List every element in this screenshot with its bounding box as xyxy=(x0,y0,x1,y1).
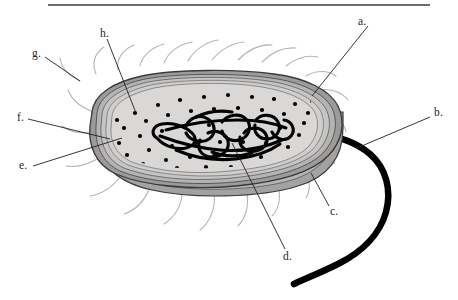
leader-c xyxy=(311,173,329,206)
leader-a xyxy=(312,26,368,96)
figure-canvas: a. b. c. d. e. f. g. h. xyxy=(0,0,458,300)
label-f: f. xyxy=(17,112,24,124)
label-b: b. xyxy=(434,107,443,119)
label-a: a. xyxy=(358,16,366,28)
label-g: g. xyxy=(32,48,41,60)
leader-b xyxy=(357,117,430,148)
label-e: e. xyxy=(19,160,27,172)
leader-g xyxy=(45,57,80,81)
label-d: d. xyxy=(283,251,292,263)
label-c: c. xyxy=(330,206,338,218)
bacteria-diagram xyxy=(0,0,458,300)
label-h: h. xyxy=(100,28,109,40)
